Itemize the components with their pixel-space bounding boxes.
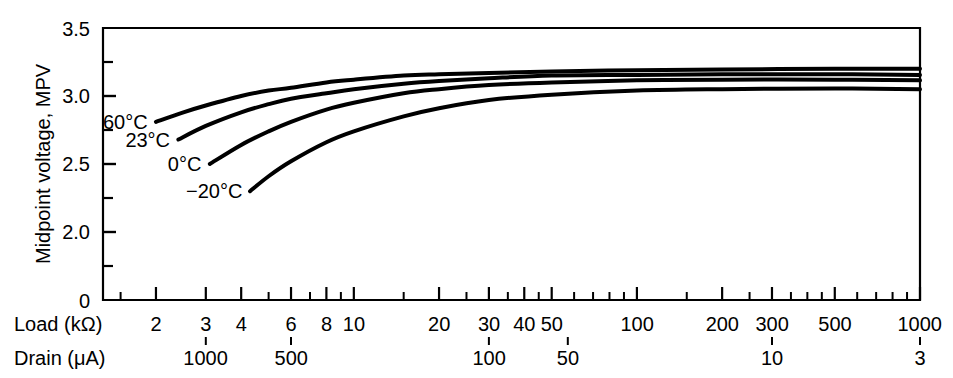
x-tick-label-20: 20 [428,314,450,334]
x-tick-label-50: 50 [541,314,563,334]
drain-tick-label-10: 10 [761,348,783,368]
x-tick-label-10: 10 [343,314,365,334]
x-tick-label-200: 200 [706,314,739,334]
drain-tick-label-1000: 1000 [183,348,228,368]
x-tick-label-1000: 1000 [898,314,943,334]
y-tick-label-2-0: 2.0 [18,221,90,244]
data-series-group [156,69,920,191]
x-axis-title-load: Load (kΩ) [14,314,102,334]
drain-tick-label-50: 50 [557,348,579,368]
chart-plot-area [0,0,953,378]
x-tick-label-300: 300 [755,314,788,334]
x-tick-label-500: 500 [818,314,851,334]
x-tick-label-2: 2 [150,314,161,334]
drain-tick-label-500: 500 [275,348,308,368]
series-label-2: 23°C [125,130,170,150]
y-tick-label-0: 0 [18,290,90,313]
x-tick-label-3: 3 [200,314,211,334]
x-axis-ticks [121,287,920,300]
y-tick-label-2-5: 2.5 [18,153,90,176]
drain-axis-ticks [206,337,920,345]
x-tick-label-6: 6 [286,314,297,334]
x-tick-label-100: 100 [620,314,653,334]
x-axis-title-drain: Drain (μA) [14,348,106,368]
x-tick-label-8: 8 [321,314,332,334]
chart-figure: Midpoint voltage, MPV 3.5 3.0 2.5 2.0 0 … [0,0,953,378]
y-tick-label-3-5: 3.5 [18,18,90,41]
y-tick-label-3-0: 3.0 [18,85,90,108]
series-label-3: 0°C [168,154,202,174]
x-tick-label-30: 30 [478,314,500,334]
y-axis-ticks [103,62,116,266]
series-label-4: −20°C [186,181,242,201]
drain-tick-label-100: 100 [472,348,505,368]
drain-tick-label-3: 3 [915,348,926,368]
x-tick-label-40: 40 [513,314,535,334]
x-tick-label-4: 4 [236,314,247,334]
